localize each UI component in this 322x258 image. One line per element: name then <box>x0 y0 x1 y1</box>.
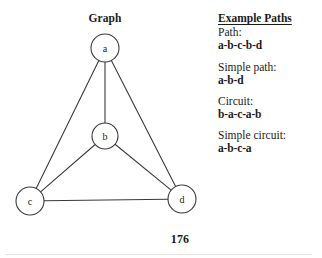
graph-diagram: abcd <box>0 0 210 230</box>
graph-node-b[interactable]: b <box>92 123 118 149</box>
graph-node-label-d: d <box>180 194 185 205</box>
graph-node-a[interactable]: a <box>91 34 119 62</box>
graph-node-label-b: b <box>103 131 108 142</box>
scan-edge-rule <box>6 254 312 255</box>
graph-node-c[interactable]: c <box>16 187 44 215</box>
path-entry-value: a-b-c-b-d <box>218 39 320 52</box>
path-entry-value: b-a-c-a-b <box>218 108 320 121</box>
page-number: 176 <box>150 232 210 246</box>
example-paths-panel: Example Paths Path:a-b-c-b-dSimple path:… <box>218 12 320 163</box>
graph-node-label-c: c <box>28 196 33 207</box>
graph-edge-c-d <box>44 199 168 201</box>
path-entry-label: Path: <box>218 26 320 39</box>
path-entry-label: Simple circuit: <box>218 129 320 142</box>
graph-edge-b-d <box>115 144 171 190</box>
graph-node-d[interactable]: d <box>168 185 196 213</box>
path-entry-label: Simple path: <box>218 61 320 74</box>
path-entry: Circuit:b-a-c-a-b <box>218 95 320 121</box>
path-entry-label: Circuit: <box>218 95 320 108</box>
path-entry-value: a-b-d <box>218 74 320 87</box>
example-paths-heading: Example Paths <box>218 12 320 25</box>
graph-edge-a-c <box>36 61 99 189</box>
example-paths-list: Path:a-b-c-b-dSimple path:a-b-dCircuit:b… <box>218 26 320 155</box>
graph-edge-b-c <box>41 145 96 192</box>
path-entry-value: a-b-c-a <box>218 142 320 155</box>
graph-node-label-a: a <box>103 43 108 54</box>
path-entry: Simple circuit:a-b-c-a <box>218 129 320 155</box>
page-canvas: Graph abcd 176 Example Paths Path:a-b-c-… <box>0 0 322 258</box>
path-entry: Path:a-b-c-b-d <box>218 26 320 52</box>
path-entry: Simple path:a-b-d <box>218 61 320 87</box>
